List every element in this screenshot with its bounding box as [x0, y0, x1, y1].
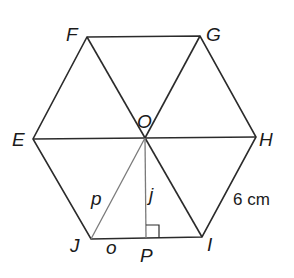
label-F: F [66, 24, 79, 45]
label-E: E [12, 129, 25, 150]
label-segment-o: o [106, 237, 117, 258]
label-O: O [137, 111, 152, 132]
label-segment-j: j [146, 184, 154, 205]
side-length-label: 6 cm [233, 190, 270, 209]
label-G: G [206, 24, 221, 45]
hexagon-diagram: F G E H O J I P p j o 6 cm [0, 0, 294, 278]
diagonal-G-J-upper [145, 36, 200, 138]
label-segment-p: p [90, 188, 102, 209]
segment-j [145, 138, 146, 238]
label-P: P [140, 245, 153, 266]
label-I: I [207, 234, 213, 255]
label-H: H [259, 129, 273, 150]
label-J: J [69, 235, 80, 256]
right-angle-marker [146, 225, 159, 238]
